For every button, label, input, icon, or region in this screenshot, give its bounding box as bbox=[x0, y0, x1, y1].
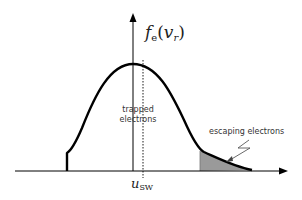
diagram-svg: fe(vr) uSW trapped electrons escaping el… bbox=[0, 0, 302, 200]
pointer-arrowhead-icon bbox=[226, 156, 233, 162]
distribution-diagram: fe(vr) uSW trapped electrons escaping el… bbox=[0, 0, 302, 200]
escaping-label: escaping electrons bbox=[209, 127, 284, 136]
x-axis-arrow-icon bbox=[279, 168, 288, 175]
y-axis-arrow-icon bbox=[130, 13, 137, 22]
trapped-label-line1: trapped bbox=[122, 105, 153, 114]
distribution-curve bbox=[67, 64, 252, 171]
trapped-label-line2: electrons bbox=[120, 115, 157, 124]
y-axis-label: fe(vr) bbox=[143, 22, 185, 43]
escaping-pointer-arrow bbox=[230, 140, 250, 160]
u-sw-label: uSW bbox=[131, 176, 154, 192]
